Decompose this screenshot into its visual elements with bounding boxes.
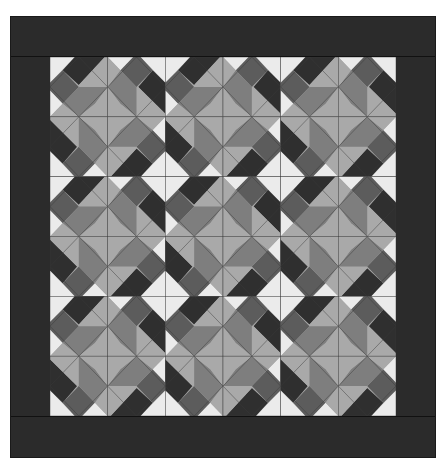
border-seam-bottom [11, 416, 435, 417]
quilt-unit [165, 237, 223, 297]
quilt-unit [108, 177, 166, 237]
quilt-unit [223, 117, 281, 177]
quilt-unit [338, 117, 396, 177]
quilt-blocks [50, 57, 396, 416]
quilt-unit [223, 296, 281, 356]
quilt-unit [50, 177, 108, 237]
quilt-unit [165, 57, 223, 117]
quilt-field [50, 57, 396, 416]
quilt-unit [108, 237, 166, 297]
quilt-unit [223, 57, 281, 117]
quilt-unit [281, 57, 339, 117]
quilt-unit [108, 117, 166, 177]
quilt-unit [50, 356, 108, 416]
quilt-unit [165, 177, 223, 237]
quilt-unit [281, 296, 339, 356]
quilt-unit [165, 117, 223, 177]
quilt-unit [50, 296, 108, 356]
quilt-unit [50, 237, 108, 297]
quilt-unit [108, 296, 166, 356]
quilt-unit [281, 356, 339, 416]
quilt-unit [338, 237, 396, 297]
quilt-unit [50, 57, 108, 117]
quilt-unit [338, 296, 396, 356]
quilt-unit [223, 237, 281, 297]
quilt-unit [108, 57, 166, 117]
quilt-unit [50, 117, 108, 177]
quilt-unit [281, 177, 339, 237]
quilt-unit [223, 177, 281, 237]
quilt-unit [108, 356, 166, 416]
quilt-unit [281, 237, 339, 297]
quilt [11, 17, 435, 457]
quilt-unit [165, 356, 223, 416]
quilt-unit [338, 356, 396, 416]
quilt-unit [281, 117, 339, 177]
quilt-unit [338, 57, 396, 117]
quilt-unit [338, 177, 396, 237]
quilt-unit [165, 296, 223, 356]
quilt-unit [223, 356, 281, 416]
